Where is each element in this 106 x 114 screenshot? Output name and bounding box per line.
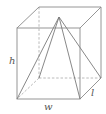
pyramid-edge-front-left <box>17 17 59 99</box>
pyramid-edge-front-right <box>59 17 80 99</box>
prism-pyramid-diagram: h w l <box>0 0 106 114</box>
prism-edges <box>17 7 101 99</box>
hidden-edges <box>17 7 101 99</box>
label-length: l <box>91 88 94 98</box>
pyramid-edge-back-left <box>39 17 59 78</box>
pyramid <box>17 17 101 99</box>
hidden-edge-bottom-left-depth <box>17 78 39 99</box>
label-height: h <box>9 56 15 66</box>
prism-top-right-depth-edge <box>80 7 101 28</box>
prism-top-left-depth-edge <box>17 7 39 28</box>
label-width: w <box>44 102 53 112</box>
